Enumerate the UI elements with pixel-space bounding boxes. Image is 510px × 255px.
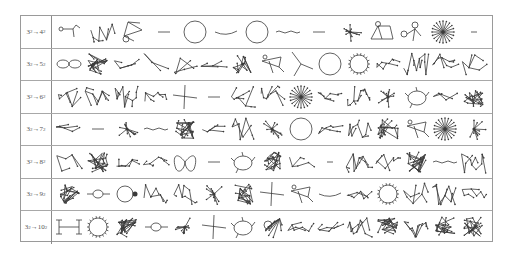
graph-cells <box>52 114 492 146</box>
graph-cells <box>52 81 492 113</box>
graph-chain-cluster-icon <box>461 180 487 208</box>
graph-tree-cluster-icon <box>404 50 430 78</box>
graph-kite-icon <box>259 50 285 78</box>
to-subscript: 2 <box>45 225 48 230</box>
graph-tree-cluster-icon <box>404 213 430 241</box>
table-row: 32→52 <box>21 49 492 82</box>
graph-cross-icon <box>201 213 227 241</box>
graph-table: 32→4232→5232→6232→7232→8232→9232→102 <box>20 15 493 242</box>
graph-chain-icon <box>288 148 314 176</box>
to-subscript: 2 <box>43 127 46 132</box>
table-row: 32→62 <box>21 81 492 114</box>
graph-tree-cluster-icon <box>461 148 487 176</box>
graph-dense-tangle-icon <box>461 213 487 241</box>
graph-dense-tangle-icon <box>375 213 401 241</box>
graph-figure-eight-icon <box>56 50 82 78</box>
graph-dense-tangle-icon <box>375 115 401 143</box>
graph-kite-icon <box>404 115 430 143</box>
graph-spiky-circle-icon <box>375 180 401 208</box>
graph-wavy-icon <box>432 148 458 176</box>
graph-tree-cluster-icon <box>114 83 140 111</box>
row-label: 32→82 <box>21 146 52 178</box>
row-label: 32→62 <box>21 81 52 113</box>
graph-triangle-loop-icon <box>120 18 146 46</box>
graph-chain-cluster-icon <box>317 83 343 111</box>
graph-chain-cluster-icon <box>143 148 169 176</box>
row-label: 32→72 <box>21 114 52 146</box>
graph-curve-icon <box>213 18 239 46</box>
graph-tree-cluster-icon <box>259 83 285 111</box>
graph-cells <box>52 16 492 48</box>
graph-dash-icon <box>201 148 227 176</box>
graph-chain-cluster-icon <box>317 213 343 241</box>
graph-tangle-icon <box>56 83 82 111</box>
graph-star-cluster-icon <box>337 18 363 46</box>
graph-chain-cluster-icon <box>317 115 343 143</box>
graph-loop-star-icon <box>259 213 285 241</box>
to-subscript: 2 <box>43 62 46 67</box>
graph-dash-icon <box>306 18 332 46</box>
row-label: 32→52 <box>21 49 52 81</box>
graph-chain-cluster-icon <box>143 83 169 111</box>
arrow-icon: → <box>31 223 38 231</box>
graph-loop-cluster-icon <box>404 83 430 111</box>
graph-cluster-icon <box>230 50 256 78</box>
graph-house-icon <box>368 18 394 46</box>
graph-branched-tree-icon <box>85 83 111 111</box>
graph-loop-cluster-icon <box>230 148 256 176</box>
graph-cells <box>52 179 492 211</box>
graph-dash-branch-icon <box>432 83 458 111</box>
graph-ring-icon <box>461 50 487 78</box>
graph-kite-star-icon <box>375 148 401 176</box>
graph-spiky-circle-icon <box>85 213 111 241</box>
graph-kite-star-icon <box>230 115 256 143</box>
graph-big-star-icon <box>430 18 456 46</box>
graph-tree-h-icon <box>56 213 82 241</box>
graph-dense-tangle-icon <box>172 115 198 143</box>
graph-cells <box>52 49 492 81</box>
graph-branched-tree-icon <box>230 83 256 111</box>
to-subscript: 2 <box>43 159 46 164</box>
graph-dense-tangle-icon <box>404 148 430 176</box>
graph-zigzag-icon <box>201 50 227 78</box>
graph-dense-tangle-icon <box>85 148 111 176</box>
graph-dense-tangle-icon <box>85 50 111 78</box>
graph-loop-chain-icon <box>143 213 169 241</box>
graph-star-cluster-icon <box>259 115 285 143</box>
graph-chain-icon <box>56 115 82 143</box>
graph-circle-icon <box>182 18 208 46</box>
graph-star-cluster-icon <box>114 115 140 143</box>
graph-double-loop-icon <box>399 18 425 46</box>
graph-dense-tangle-icon <box>114 213 140 241</box>
graph-branched-tree-icon <box>346 115 372 143</box>
graph-tangle-icon <box>143 180 169 208</box>
graph-dash-icon <box>85 115 111 143</box>
graph-tree-cluster-icon <box>346 83 372 111</box>
graph-dense-tangle-icon <box>259 148 285 176</box>
graph-branched-tree-icon <box>432 180 458 208</box>
graph-cells <box>52 146 492 178</box>
graph-chain-cluster-icon <box>114 148 140 176</box>
table-row: 32→92 <box>21 179 492 212</box>
graph-curve-icon <box>317 180 343 208</box>
to-subscript: 2 <box>43 192 46 197</box>
graph-big-star-icon <box>288 83 314 111</box>
graph-circle-icon <box>244 18 270 46</box>
table-row: 32→102 <box>21 211 492 244</box>
graph-chain-icon <box>201 115 227 143</box>
table-row: 32→72 <box>21 114 492 147</box>
graph-chain-cluster-icon <box>288 213 314 241</box>
graph-loop-chain-icon <box>85 180 111 208</box>
row-label: 32→102 <box>21 211 52 244</box>
graph-ring-knot-icon <box>114 180 140 208</box>
arrow-icon: → <box>33 60 40 68</box>
arrow-icon: → <box>33 158 40 166</box>
graph-tripod-branch-icon <box>172 180 198 208</box>
graph-star-cluster-icon <box>172 213 198 241</box>
graph-star-cluster-icon <box>375 83 401 111</box>
row-label: 32→42 <box>21 16 52 48</box>
graph-dense-tangle-icon <box>230 180 256 208</box>
row-label: 32→92 <box>21 179 52 211</box>
to-subscript: 2 <box>43 29 46 34</box>
graph-dense-tangle-icon <box>56 180 82 208</box>
